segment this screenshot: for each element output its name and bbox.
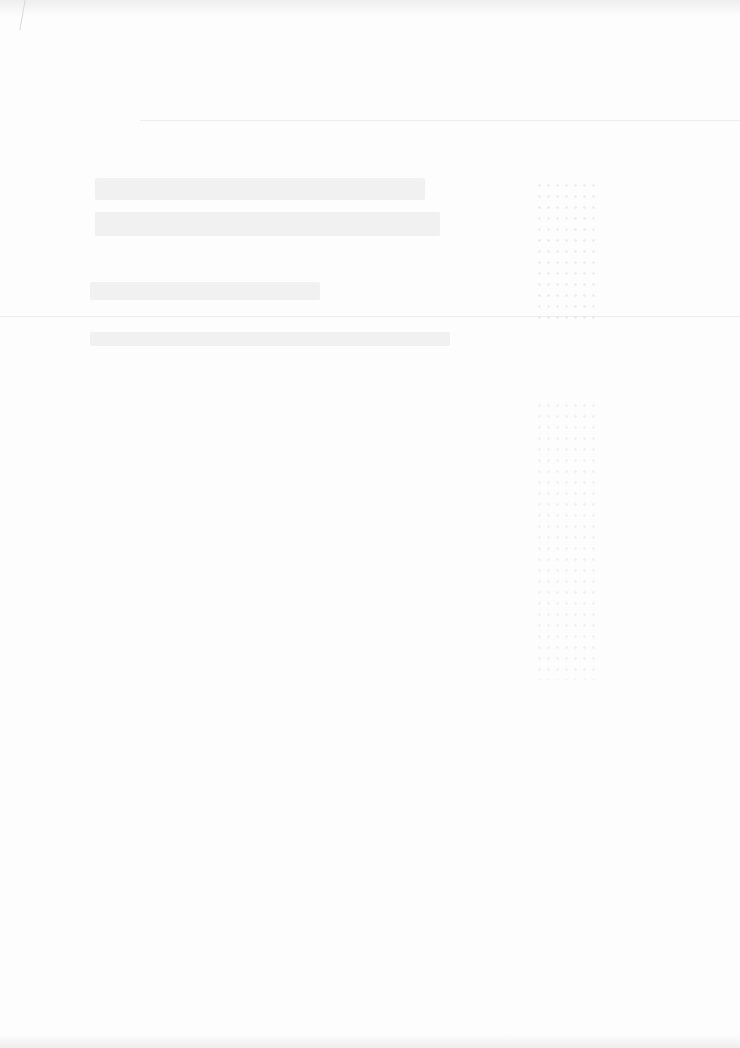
subtitle-line	[90, 282, 320, 300]
right-column-marks-upper	[535, 180, 595, 320]
caption-line	[90, 332, 450, 346]
scan-edge-bottom	[0, 1034, 740, 1048]
title-line-2	[95, 212, 440, 236]
page-corner-fold	[0, 0, 26, 30]
section-rule	[0, 316, 740, 317]
scan-edge-top	[0, 0, 740, 16]
title-line-1	[95, 178, 425, 200]
right-column-marks-lower	[535, 400, 595, 680]
header-rule	[140, 120, 740, 121]
